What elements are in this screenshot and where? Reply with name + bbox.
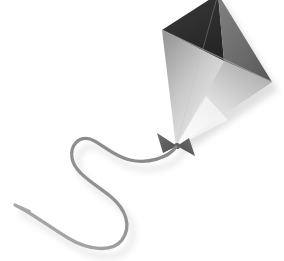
illustration-canvas: Kite Grayscale illustration of a diamond…	[0, 0, 284, 261]
kite-body	[162, 0, 272, 147]
kite-illustration	[0, 0, 284, 261]
kite-string	[15, 138, 176, 248]
string-shadow	[21, 146, 182, 256]
string-path	[15, 138, 176, 248]
